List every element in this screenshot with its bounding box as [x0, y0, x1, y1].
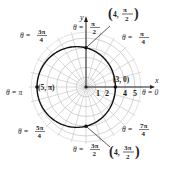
point-label-4-3pi2-r: 4,: [114, 148, 120, 157]
angle-label-theta_pi2-num: π: [91, 20, 95, 28]
angle-label-theta_5pi4-den: 4: [38, 132, 42, 140]
angle-label-theta_pi2-prefix: θ =: [73, 23, 84, 32]
angle-label-theta_3pi4-prefix: θ =: [20, 31, 31, 40]
angle-label-theta_pi4-prefix: θ =: [122, 33, 133, 42]
point-label-4-3pi2-rparen: ): [135, 144, 140, 160]
marked-point: [114, 85, 118, 89]
angle-label-theta_3pi2-num: 3π: [91, 142, 99, 150]
angle-label-theta_pi4-num: π: [140, 30, 144, 38]
grid-spoke: [71, 87, 86, 142]
grid-spoke: [86, 32, 101, 87]
angle-label-theta_5pi4-prefix: θ =: [18, 127, 29, 136]
angle-label-theta_7pi4-prefix: θ =: [122, 125, 133, 134]
leader-line: [86, 26, 110, 48]
angle-label-theta_3pi2-den: 2: [93, 150, 97, 158]
radial-tick-label: 2: [105, 89, 109, 98]
point-label-5-pi: (5, π): [38, 83, 55, 92]
polar-chart: xy1245(3, 0)(5, π)(4,π2)(4,3π2)θ = 0θ =π…: [0, 0, 171, 172]
y-axis-arrow-icon: [84, 16, 88, 22]
point-label-4-pi2-rparen: ): [134, 6, 139, 22]
point-label-4-3pi2-num: 3π: [124, 144, 132, 152]
point-label-4-pi2-den: 2: [125, 15, 129, 23]
point-label-4-3pi2-den: 2: [126, 153, 130, 161]
point-label-4-pi2-r: 4,: [113, 10, 119, 19]
angle-label-theta_5pi4-num: 5π: [36, 124, 44, 132]
angle-label-theta_pi4-den: 4: [142, 38, 146, 46]
origin-dot: [84, 85, 87, 88]
angle-label-theta_3pi2-prefix: θ =: [73, 145, 84, 154]
angle-label-theta0: θ = 0: [142, 88, 158, 97]
point-label-3-0: (3, 0): [113, 75, 130, 84]
grid-spoke: [71, 32, 86, 87]
x-axis-label: x: [154, 76, 159, 85]
angle-label-theta_pi: θ = π: [6, 88, 22, 97]
point-label-4-pi2-num: π: [123, 6, 127, 14]
angle-label-theta_7pi4-den: 4: [142, 130, 146, 138]
y-axis-label: y: [79, 13, 84, 22]
angle-label-theta_pi2-den: 2: [93, 28, 97, 36]
radial-tick-label: 1: [96, 89, 100, 98]
angle-label-theta_7pi4-num: 7π: [140, 122, 148, 130]
radial-tick-label: 5: [133, 89, 137, 98]
angle-label-theta_3pi4-num: 3π: [38, 28, 46, 36]
angle-label-theta_3pi4-den: 4: [40, 36, 44, 44]
radial-tick-label: 4: [123, 89, 127, 98]
